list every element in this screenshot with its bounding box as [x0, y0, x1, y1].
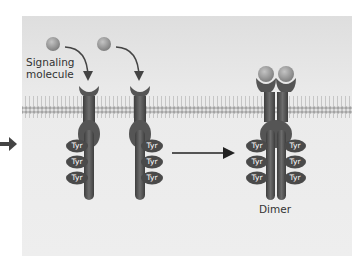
signaling-molecule-2: [97, 37, 111, 51]
tyr-label: Tyr: [248, 141, 266, 151]
tyr-label: Tyr: [68, 141, 86, 151]
binding-arrow-2: [116, 47, 139, 78]
incoming-arrow-icon: [0, 137, 17, 151]
diagram-canvas: [0, 0, 363, 261]
dimer-label: Dimer: [259, 203, 291, 215]
tyr-label: Tyr: [286, 157, 304, 167]
tyr-label: Tyr: [68, 173, 86, 183]
tyr-label: Tyr: [143, 173, 161, 183]
tyr-label: Tyr: [68, 157, 86, 167]
tyr-label: Tyr: [286, 141, 304, 151]
tyr-label: Tyr: [286, 173, 304, 183]
cell-membrane: [22, 96, 352, 118]
tyr-label: Tyr: [248, 173, 266, 183]
tyr-label: Tyr: [248, 157, 266, 167]
signaling-molecule-label: Signaling molecule: [26, 56, 75, 80]
tyr-label: Tyr: [143, 141, 161, 151]
tyr-label: Tyr: [143, 157, 161, 167]
signaling-molecule-1: [46, 37, 60, 51]
